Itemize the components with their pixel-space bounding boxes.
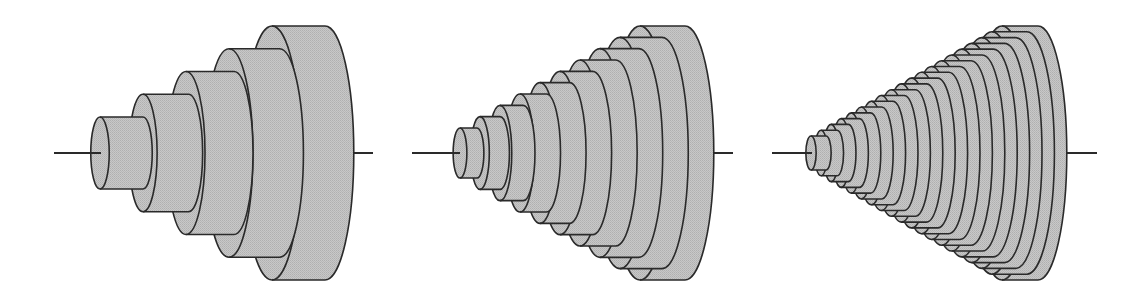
panel-10-disks — [412, 26, 733, 280]
disk-method-figure — [0, 0, 1143, 299]
panel-20-disks — [772, 26, 1097, 280]
panel-5-disks — [54, 26, 373, 280]
figure-canvas — [0, 0, 1143, 299]
